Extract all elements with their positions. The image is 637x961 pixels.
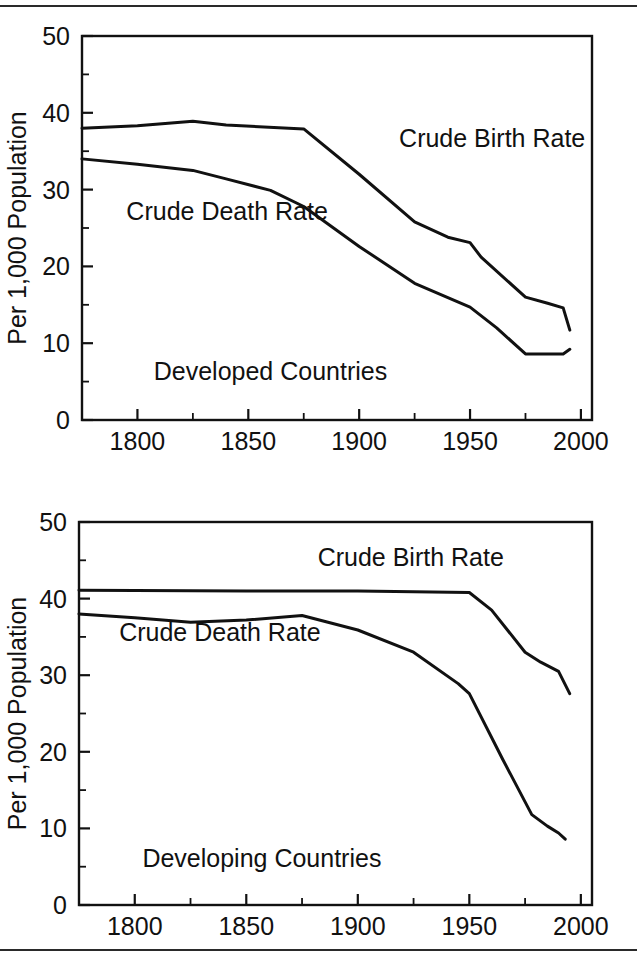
x-axis-tick-label: 1850	[218, 912, 274, 940]
y-axis-tick-label: 30	[42, 176, 70, 204]
x-axis-tick-label: 1900	[331, 427, 387, 455]
series-line-crude-birth-rate	[82, 121, 570, 330]
y-axis-tick-label: 20	[42, 252, 70, 280]
annotation-crude-death-rate: Crude Death Rate	[126, 197, 328, 225]
chart-panel-developing-countries: 0102030405018001850190019502000Per 1,000…	[0, 500, 637, 945]
top-divider-rule	[0, 5, 637, 7]
y-axis-tick-label: 0	[53, 891, 67, 919]
y-axis-tick-label: 50	[39, 508, 67, 536]
annotation-developing-countries: Developing Countries	[142, 844, 381, 872]
annotation-crude-death-rate: Crude Death Rate	[119, 618, 321, 646]
y-axis-title: Per 1,000 Population	[3, 111, 31, 345]
x-axis-tick-label: 1800	[110, 427, 166, 455]
bottom-divider-rule	[0, 949, 637, 951]
y-axis-tick-label: 10	[42, 329, 70, 357]
y-axis-tick-label: 20	[39, 738, 67, 766]
y-axis-tick-label: 50	[42, 22, 70, 50]
developed-countries-line-chart: 0102030405018001850190019502000Per 1,000…	[0, 14, 637, 474]
y-axis-tick-label: 30	[39, 661, 67, 689]
chart-panel-developed-countries: 0102030405018001850190019502000Per 1,000…	[0, 14, 637, 474]
x-axis-tick-label: 1800	[107, 912, 163, 940]
y-axis-tick-label: 10	[39, 814, 67, 842]
x-axis-tick-label: 2000	[553, 427, 609, 455]
x-axis-tick-label: 1950	[442, 427, 498, 455]
y-axis-tick-label: 0	[56, 406, 70, 434]
annotation-developed-countries: Developed Countries	[154, 357, 387, 385]
y-axis-tick-label: 40	[39, 585, 67, 613]
x-axis-tick-label: 1950	[442, 912, 498, 940]
series-line-crude-death-rate	[82, 159, 570, 354]
x-axis-tick-label: 2000	[553, 912, 609, 940]
annotation-crude-birth-rate: Crude Birth Rate	[399, 124, 585, 152]
series-line-crude-death-rate	[79, 614, 565, 839]
developing-countries-line-chart: 0102030405018001850190019502000Per 1,000…	[0, 500, 637, 945]
x-axis-tick-label: 1900	[330, 912, 386, 940]
y-axis-tick-label: 40	[42, 99, 70, 127]
y-axis-title: Per 1,000 Population	[3, 597, 31, 831]
annotation-crude-birth-rate: Crude Birth Rate	[318, 543, 504, 571]
x-axis-tick-label: 1850	[220, 427, 276, 455]
